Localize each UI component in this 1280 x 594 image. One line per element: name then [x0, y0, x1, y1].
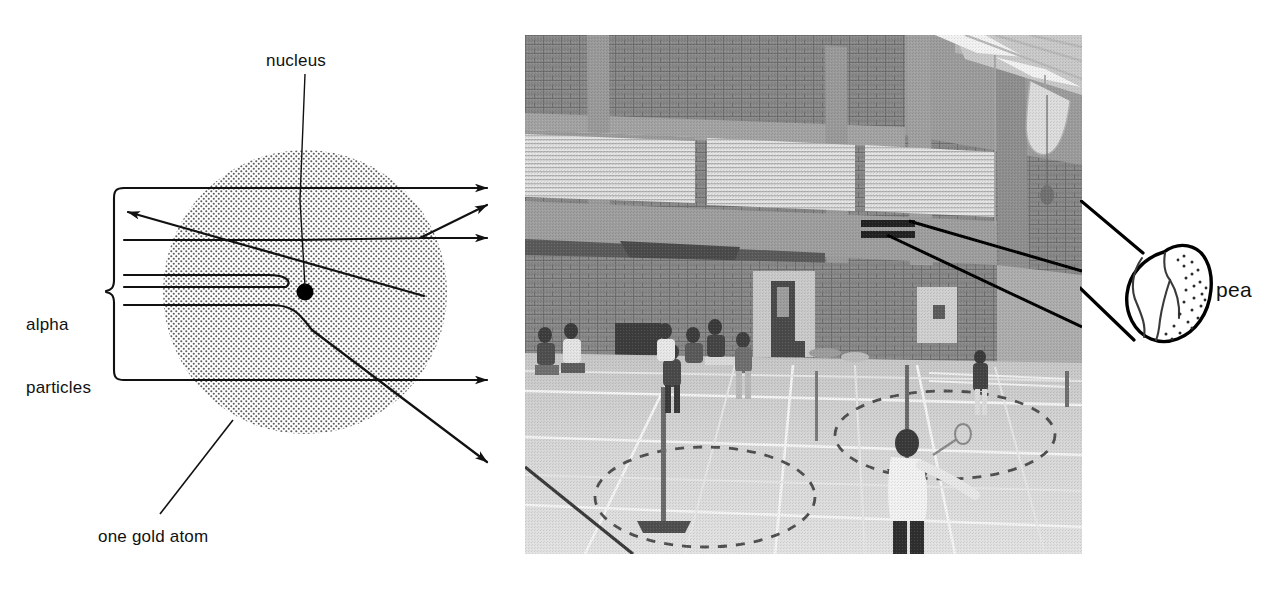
label-one-gold-atom: one gold atom [98, 526, 208, 547]
figure-canvas: nucleus alpha particles one gold atom [0, 0, 1280, 594]
rutherford-scattering-diagram: nucleus alpha particles one gold atom [0, 0, 520, 594]
label-alpha-line1: alpha [26, 314, 91, 335]
label-nucleus: nucleus [266, 50, 326, 71]
photograph-svg [525, 35, 1082, 554]
gold-atom-leader-line [160, 420, 233, 514]
label-alpha-particles: alpha particles [26, 272, 91, 440]
alpha-particles-brace [106, 188, 124, 380]
label-pea: pea [1216, 278, 1252, 302]
photo-grain-overlay [525, 35, 1082, 554]
nucleus-dot [297, 284, 314, 301]
sports-hall-photograph [525, 35, 1082, 554]
label-alpha-line2: particles [26, 377, 91, 398]
pea-outline [1127, 245, 1212, 341]
